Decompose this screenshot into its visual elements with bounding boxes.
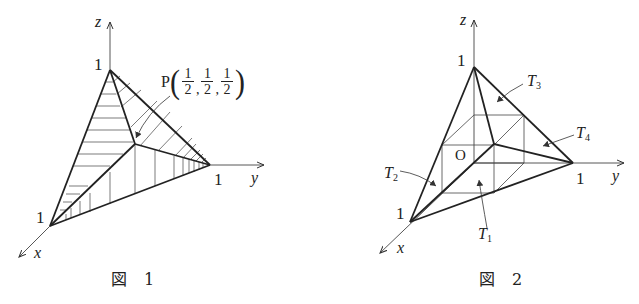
fig2-region-t1: T1 (478, 226, 492, 244)
fig1-hatch-bottom-face (66, 145, 203, 220)
fig1-x-axis-label: x (34, 245, 41, 261)
t4-arrow (543, 135, 574, 146)
fig1-y-axis-label: y (251, 170, 258, 186)
t1-arrow (479, 180, 487, 228)
coord-y: 12 (201, 66, 213, 97)
point-name: P (161, 74, 170, 90)
open-paren: ( (170, 65, 180, 98)
fig2-x-tick-label: 1 (396, 205, 405, 222)
coord-z: 12 (221, 66, 233, 97)
fig1-caption: 図 1 (111, 272, 160, 288)
fig1-y-tick-label: 1 (214, 171, 223, 188)
close-paren: ) (235, 65, 245, 98)
fig1-z-tick-label: 1 (94, 56, 103, 73)
fig2-z-tick-label: 1 (457, 52, 466, 69)
fig2-caption: 図 2 (479, 272, 528, 288)
fig1-axes (19, 22, 264, 257)
fig2-origin-label: O (455, 148, 466, 163)
fig2-y-axis-label: y (612, 168, 619, 184)
fig2-z-axis-label: z (460, 12, 466, 28)
figure-1 (19, 22, 264, 257)
diagram-canvas (0, 0, 639, 304)
fig1-point-p-label: P ( 12 , 12 , 12 ) (161, 66, 245, 97)
fig2-region-t4: T4 (576, 125, 590, 143)
coord-x: 12 (182, 66, 194, 97)
fig2-y-tick-label: 1 (576, 170, 585, 187)
fig1-x-tick-label: 1 (36, 209, 45, 226)
fig2-x-axis-label: x (397, 240, 404, 256)
fig2-region-t2: T2 (384, 165, 398, 183)
fig1-z-axis-label: z (95, 14, 101, 30)
fig2-region-t3: T3 (527, 73, 541, 91)
fig2-tetrahedron-edges (410, 67, 573, 222)
fig1-hatch-left-face (60, 82, 133, 210)
